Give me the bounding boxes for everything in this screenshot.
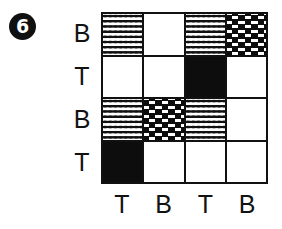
grid-cell-r2c4[interactable] [227, 57, 266, 98]
grid-cell-r3c3[interactable] [186, 99, 225, 140]
row-label-1: B [68, 12, 96, 55]
figure-number-badge: 6 [9, 13, 36, 40]
figure-root: 6 B T B T T B T B [0, 0, 282, 229]
column-label-1: T [101, 186, 143, 222]
grid-cell-r3c4[interactable] [227, 99, 266, 140]
grid-cell-r4c2[interactable] [144, 142, 183, 183]
grid-cell-r1c1[interactable] [103, 14, 142, 55]
grid-cell-r3c1[interactable] [103, 99, 142, 140]
row-label-4: T [68, 141, 96, 184]
grid-cell-r4c3[interactable] [186, 142, 225, 183]
column-label-4: B [226, 186, 268, 222]
grid-cell-r1c4[interactable] [227, 14, 266, 55]
grid-cell-r2c3[interactable] [186, 57, 225, 98]
column-label-2: B [143, 186, 185, 222]
grid-cell-r3c2[interactable] [144, 99, 183, 140]
pattern-grid [101, 12, 268, 184]
grid-cell-r4c4[interactable] [227, 142, 266, 183]
grid-cell-r4c1[interactable] [103, 142, 142, 183]
grid-cell-r2c1[interactable] [103, 57, 142, 98]
row-label-axis: B T B T [68, 12, 96, 184]
row-label-3: B [68, 98, 96, 141]
column-label-3: T [185, 186, 227, 222]
grid-cell-r2c2[interactable] [144, 57, 183, 98]
grid-cell-r1c3[interactable] [186, 14, 225, 55]
grid-cell-r1c2[interactable] [144, 14, 183, 55]
column-label-axis: T B T B [101, 186, 268, 222]
row-label-2: T [68, 55, 96, 98]
